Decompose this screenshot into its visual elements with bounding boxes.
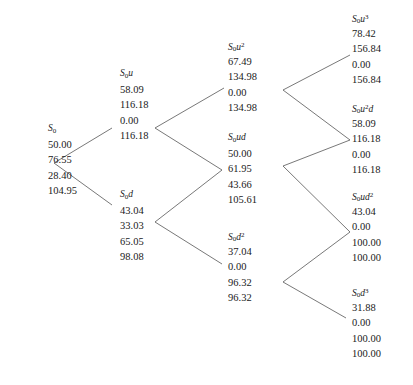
tree-edge-s0ud-to-s0u2d (283, 140, 350, 166)
node-label-factor: u (128, 68, 133, 78)
node-label-s0: S0 (48, 121, 77, 137)
node-value: 96.32 (228, 275, 252, 291)
tree-edge-s0u-to-s0u2 (155, 88, 224, 128)
node-value: 43.04 (120, 203, 144, 219)
tree-node-s0ud: S0ud50.0061.9543.66105.61 (228, 130, 257, 208)
node-value: 104.95 (48, 183, 77, 199)
node-label-s0u3: S0u3 (352, 10, 381, 26)
node-label-s0u: S0u (120, 66, 149, 82)
node-label-exponent: 2 (241, 41, 245, 49)
node-value: 50.00 (228, 146, 257, 162)
node-value: 0.00 (228, 85, 257, 101)
node-values-s0ud: 50.0061.9543.66105.61 (228, 146, 257, 208)
tree-edge-s0d2-to-s0ud2 (283, 232, 350, 282)
node-value: 33.03 (120, 218, 144, 234)
tree-node-s0u3: S0u378.42156.840.00156.84 (352, 10, 381, 88)
tree-edge-s0ud-to-s0ud2 (283, 166, 350, 232)
node-label-factor: d (128, 189, 133, 199)
tree-edge-s0d2-to-s0d3 (283, 282, 346, 318)
node-value: 134.98 (228, 69, 257, 85)
node-values-s0d3: 31.880.00100.00100.00 (352, 300, 381, 362)
node-label-s0ud: S0ud (228, 130, 257, 146)
node-value: 58.09 (352, 116, 381, 132)
node-label-s0u2d: S0u2d (352, 100, 381, 116)
tree-edge-s0u-to-s0ud (155, 128, 222, 170)
node-values-s0u2d: 58.09116.180.00116.18 (352, 116, 381, 178)
node-value: 61.95 (228, 161, 257, 177)
node-value: 0.00 (352, 147, 381, 163)
node-values-s0u: 58.09116.180.00116.18 (120, 82, 149, 144)
node-value: 100.00 (352, 250, 381, 266)
node-values-s0d2: 37.040.0096.3296.32 (228, 244, 252, 306)
node-label-subscript: 0 (53, 127, 57, 135)
node-value: 105.61 (228, 192, 257, 208)
node-values-s0u3: 78.42156.840.00156.84 (352, 26, 381, 88)
node-value: 116.18 (352, 131, 381, 147)
node-value: 28.40 (48, 168, 77, 184)
tree-node-s0d2: S0d237.040.0096.3296.32 (228, 228, 252, 306)
node-value: 65.05 (120, 234, 144, 250)
node-label-exponent: 3 (365, 287, 369, 295)
node-label-factor: ud (236, 132, 246, 142)
tree-edge-s0d-to-s0ud (155, 170, 222, 222)
node-value: 100.00 (352, 331, 381, 347)
node-label-factor: ud (360, 192, 370, 202)
node-value: 50.00 (48, 137, 77, 153)
node-values-s0: 50.0076.5528.40104.95 (48, 137, 77, 199)
tree-edge-s0u2-to-s0u2d (283, 90, 350, 140)
node-value: 0.00 (352, 57, 381, 73)
node-value: 116.18 (120, 128, 149, 144)
node-label-s0u2: S0u2 (228, 38, 257, 54)
node-label-exponent: 3 (365, 13, 369, 21)
node-label-exponent: 2 (370, 191, 374, 199)
binomial-tree-diagram: S050.0076.5528.40104.95S0u58.09116.180.0… (0, 0, 413, 385)
tree-edge-s0u2-to-s0u3 (283, 55, 350, 90)
node-value: 100.00 (352, 346, 381, 362)
tree-node-s0u: S0u58.09116.180.00116.18 (120, 66, 149, 144)
node-values-s0ud2: 43.040.00100.00100.00 (352, 204, 381, 266)
node-values-s0d: 43.0433.0365.0598.08 (120, 203, 144, 265)
node-value: 156.84 (352, 41, 381, 57)
tree-node-s0d3: S0d331.880.00100.00100.00 (352, 284, 381, 362)
tree-node-s0u2d: S0u2d58.09116.180.00116.18 (352, 100, 381, 178)
node-value: 67.49 (228, 54, 257, 70)
node-value: 96.32 (228, 290, 252, 306)
tree-edge-s0d-to-s0d2 (155, 222, 222, 264)
node-value: 98.08 (120, 249, 144, 265)
node-label-exponent: 2 (241, 231, 245, 239)
node-value: 116.18 (352, 162, 381, 178)
node-label-s0ud2: S0ud2 (352, 188, 381, 204)
node-value: 78.42 (352, 26, 381, 42)
tree-node-s0u2: S0u267.49134.980.00134.98 (228, 38, 257, 116)
node-value: 100.00 (352, 235, 381, 251)
tree-node-s0d: S0d43.0433.0365.0598.08 (120, 187, 144, 265)
node-value: 0.00 (120, 113, 149, 129)
node-label-tail: d (369, 104, 374, 114)
tree-node-s0: S050.0076.5528.40104.95 (48, 121, 77, 199)
node-value: 0.00 (352, 219, 381, 235)
node-label-s0d2: S0d2 (228, 228, 252, 244)
node-value: 0.00 (228, 259, 252, 275)
node-value: 134.98 (228, 100, 257, 116)
node-value: 37.04 (228, 244, 252, 260)
node-value: 43.66 (228, 177, 257, 193)
node-value: 58.09 (120, 82, 149, 98)
node-value: 31.88 (352, 300, 381, 316)
tree-node-s0ud2: S0ud243.040.00100.00100.00 (352, 188, 381, 266)
node-value: 43.04 (352, 204, 381, 220)
node-value: 0.00 (352, 315, 381, 331)
node-values-s0u2: 67.49134.980.00134.98 (228, 54, 257, 116)
node-value: 76.55 (48, 152, 77, 168)
node-value: 116.18 (120, 97, 149, 113)
node-value: 156.84 (352, 72, 381, 88)
node-label-s0d: S0d (120, 187, 144, 203)
node-label-s0d3: S0d3 (352, 284, 381, 300)
